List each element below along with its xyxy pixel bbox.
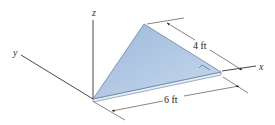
x-axis: x [222,61,264,72]
z-axis-label: z [91,7,96,18]
triangular-plate-diagram: z y x 4 ft 6 ft [0,0,275,125]
dimension-label-4ft: 4 ft [193,40,207,51]
dimension-label-6ft: 6 ft [164,94,178,105]
x-axis-label: x [258,61,264,72]
z-axis: z [91,7,96,99]
y-axis-label: y [12,47,18,58]
y-axis: y [12,47,93,99]
